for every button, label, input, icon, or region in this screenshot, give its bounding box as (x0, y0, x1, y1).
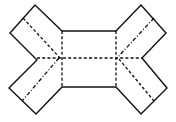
net-svg (0, 0, 176, 122)
fold-line-flap-bottom-left (22, 58, 59, 101)
folding-net-diagram (0, 0, 176, 122)
cut-outline (9, 5, 167, 114)
